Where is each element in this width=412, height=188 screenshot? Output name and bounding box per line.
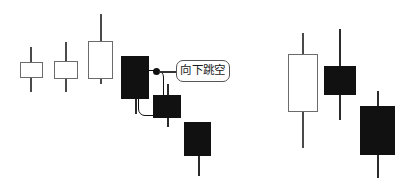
annotation-callout-gap-down[interactable]: 向下跳空 [176,60,230,82]
annotation-label: 向下跳空 [180,65,225,77]
candle-body-bullish [20,62,43,78]
candle-body-bearish [324,66,356,95]
candle-body-bearish [360,106,395,155]
candlestick-diagram: 向下跳空 [0,0,412,188]
candle-body-bullish [88,41,113,79]
candle-body-bullish [288,54,318,112]
candle-body-bullish [54,61,78,79]
candle-body-bearish [184,122,211,156]
gap-highlight-bracket [138,70,164,116]
